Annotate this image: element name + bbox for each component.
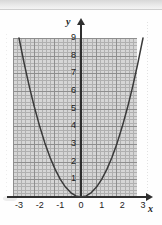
parabola-curve: [0, 0, 162, 225]
graph-figure: x y -3-2-10123 123456789: [0, 0, 162, 225]
